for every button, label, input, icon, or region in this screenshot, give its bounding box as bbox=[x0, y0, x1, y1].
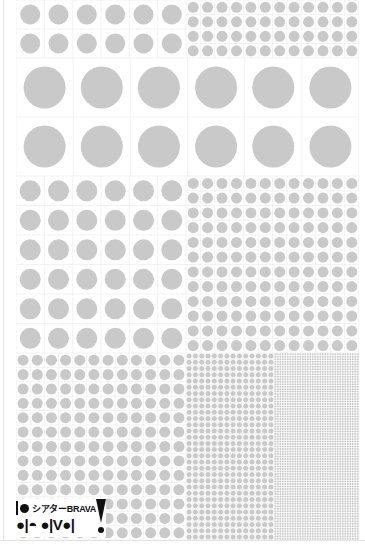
exclamation-icon bbox=[96, 499, 106, 535]
logo-title: シアターBRAVA bbox=[32, 502, 96, 515]
theater-brava-logo: シアターBRAVA ●|◓ ●|V●| bbox=[16, 499, 106, 537]
sheet-bottom-edge bbox=[0, 540, 365, 541]
logo-glyph-row: ●|◓ ●|V●| bbox=[16, 518, 75, 532]
dot-panel-p8 bbox=[274, 353, 359, 540]
dot-panel-p2 bbox=[186, 0, 359, 58]
logo-title-row: シアターBRAVA bbox=[16, 501, 96, 515]
dot-panel-p3 bbox=[16, 58, 359, 176]
dot-panel-p7 bbox=[186, 353, 274, 540]
sheet-left-edge bbox=[3, 0, 4, 540]
logo-ball-icon bbox=[20, 504, 29, 513]
dot-panel-p1 bbox=[16, 0, 186, 58]
logo-bar-icon bbox=[16, 501, 18, 515]
dot-panel-p5 bbox=[186, 176, 359, 353]
dot-panel-p4 bbox=[16, 176, 186, 353]
logo-glyphs: ●|◓ ●|V●| bbox=[16, 518, 75, 532]
